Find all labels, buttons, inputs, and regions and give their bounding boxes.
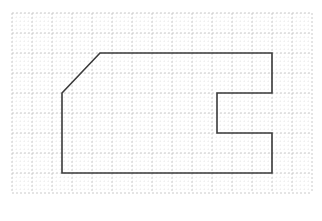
grid-polygon-diagram bbox=[0, 0, 322, 221]
figure-container: Grid Polygon Figure A closed polygon out… bbox=[0, 0, 322, 221]
